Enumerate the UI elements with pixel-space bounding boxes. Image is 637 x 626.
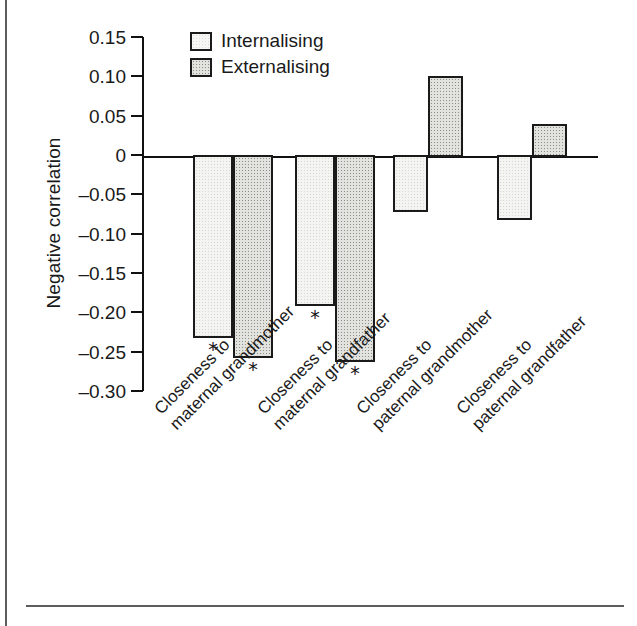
chart-legend: Internalising Externalising <box>190 28 330 80</box>
y-axis-tick <box>131 233 143 235</box>
y-axis-tick <box>131 272 143 274</box>
y-axis-tick-label: –0.10 <box>46 224 126 243</box>
legend-swatch-internalising-icon <box>190 32 212 51</box>
legend-item-externalising: Externalising <box>190 54 330 80</box>
y-axis-tick-label: 0 <box>46 146 126 165</box>
figure-root: Negative correlation 0.150.100.050–0.05–… <box>0 0 637 626</box>
page-rule-bottom <box>26 605 624 607</box>
y-axis-tick <box>131 115 143 117</box>
significance-star: * <box>310 308 320 327</box>
y-axis-tick-label: 0.05 <box>46 106 126 125</box>
bar-internalising <box>497 155 532 220</box>
bar-externalising <box>428 76 463 157</box>
bar-externalising <box>532 124 567 157</box>
legend-swatch-externalising-icon <box>190 58 212 77</box>
y-axis-tick <box>131 351 143 353</box>
y-axis-tick <box>131 36 143 38</box>
page-rule-left <box>5 0 7 626</box>
y-axis-tick <box>131 154 143 156</box>
y-axis-tick-label: –0.05 <box>46 185 126 204</box>
y-axis-tick <box>131 75 143 77</box>
y-axis-tick-label: –0.25 <box>46 342 126 361</box>
y-axis-tick-label: 0.15 <box>46 28 126 47</box>
bar-internalising <box>393 155 428 212</box>
y-axis-tick-label: –0.15 <box>46 264 126 283</box>
y-axis-tick-label: –0.30 <box>46 382 126 401</box>
y-axis-tick <box>131 193 143 195</box>
bar-internalising <box>193 155 233 338</box>
y-axis-tick <box>131 390 143 392</box>
bar-internalising <box>295 155 335 306</box>
y-axis-tick <box>131 311 143 313</box>
y-axis-tick-label: 0.10 <box>46 67 126 86</box>
legend-item-internalising: Internalising <box>190 28 330 54</box>
y-axis-line <box>142 37 144 391</box>
legend-label-externalising: Externalising <box>221 56 330 78</box>
y-axis-tick-label: –0.20 <box>46 303 126 322</box>
legend-label-internalising: Internalising <box>221 30 323 52</box>
